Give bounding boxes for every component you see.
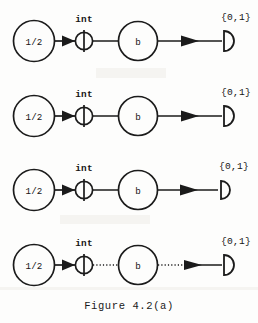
source-node[interactable]: 1/2 <box>14 170 55 211</box>
output-terminal[interactable]: {0,1} <box>221 236 251 275</box>
figure-caption: Figure 4.2(a) <box>0 300 258 312</box>
flow-diagram-row: 1/2 int b {0,1} <box>0 80 258 154</box>
flow-diagram-row: 1/2 int b {0,1} <box>0 5 258 79</box>
process-node-label: b <box>135 37 141 48</box>
process-node-label: b <box>135 186 141 197</box>
source-node[interactable]: 1/2 <box>14 245 55 286</box>
process-node[interactable]: b <box>119 246 158 285</box>
source-node-label: 1/2 <box>25 112 42 123</box>
source-node[interactable]: 1/2 <box>14 96 55 137</box>
source-node-label: 1/2 <box>25 186 42 197</box>
output-terminal-label: {0,1} <box>219 161 249 172</box>
output-terminal-label: {0,1} <box>221 236 251 247</box>
output-terminal-label: {0,1} <box>221 12 251 23</box>
process-node-label: b <box>135 112 141 123</box>
connector-process-to-output <box>158 111 222 122</box>
process-node-label: b <box>135 261 141 272</box>
connector-process-to-output <box>158 260 222 270</box>
process-node[interactable]: b <box>119 171 158 210</box>
output-terminal[interactable]: {0,1} <box>221 87 251 126</box>
integrator-node-label: int <box>75 163 92 174</box>
source-node-label: 1/2 <box>25 261 42 272</box>
connector-source-to-integrator <box>55 185 75 196</box>
figure-page: 1/2 int b {0,1} <box>0 0 258 323</box>
output-terminal[interactable]: {0,1} <box>219 161 249 199</box>
connector-process-to-output <box>158 185 218 196</box>
connector-source-to-integrator <box>55 260 75 271</box>
flow-diagram-row: 1/2 int b {0,1} <box>0 229 258 303</box>
integrator-node-label: int <box>75 89 92 100</box>
output-terminal[interactable]: {0,1} <box>221 12 251 51</box>
source-node-label: 1/2 <box>25 37 42 48</box>
integrator-node-label: int <box>75 238 92 249</box>
connector-source-to-integrator <box>55 36 75 47</box>
flow-diagram-row: 1/2 int b {0,1} <box>0 154 258 228</box>
integrator-node[interactable]: int <box>75 163 92 201</box>
integrator-node[interactable]: int <box>75 14 92 52</box>
integrator-node[interactable]: int <box>75 89 92 127</box>
integrator-node[interactable]: int <box>75 238 92 276</box>
output-terminal-label: {0,1} <box>221 87 251 98</box>
connector-source-to-integrator <box>55 111 75 122</box>
integrator-node-label: int <box>75 14 92 25</box>
source-node[interactable]: 1/2 <box>14 21 55 62</box>
connector-process-to-output <box>158 36 222 47</box>
process-node[interactable]: b <box>119 22 158 61</box>
process-node[interactable]: b <box>119 97 158 136</box>
